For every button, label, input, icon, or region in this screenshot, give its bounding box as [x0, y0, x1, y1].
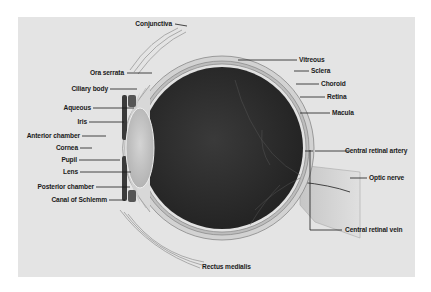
label-sclera: Sclera: [311, 67, 330, 75]
ciliary-body-lower: [128, 190, 136, 202]
label-anterior-chamber: Anterior chamber: [10, 132, 80, 140]
label-central-retinal-artery: Central retinal artery: [345, 147, 407, 155]
lens-shape: [126, 108, 154, 188]
label-aqueous: Aqueous: [30, 104, 91, 112]
label-vitreous: Vitreous: [299, 56, 324, 64]
label-cornea: Cornea: [20, 144, 78, 152]
label-lens: Lens: [20, 168, 78, 176]
label-ora-serrata: Ora serrata: [60, 69, 124, 77]
label-pupil: Pupil: [20, 156, 77, 164]
label-iris: Iris: [30, 118, 87, 126]
iris-lower: [122, 156, 127, 201]
label-conjunctiva: Conjunctiva: [110, 20, 172, 28]
label-macula: Macula: [332, 109, 354, 117]
label-posterior-chamber: Posterior chamber: [18, 183, 94, 191]
label-retina: Retina: [327, 93, 347, 101]
label-central-retinal-vein: Central retinal vein: [345, 226, 402, 234]
label-choroid: Choroid: [321, 80, 346, 88]
label-ciliary-body: Ciliary body: [40, 85, 108, 93]
label-rectus-medialis: Rectus medialis: [202, 263, 251, 271]
vitreous-body: [141, 67, 303, 229]
label-optic-nerve: Optic nerve: [369, 174, 404, 182]
ciliary-body-upper: [128, 95, 136, 107]
label-canal-of-schlemm: Canal of Schlemm: [30, 196, 107, 204]
iris-upper: [122, 95, 127, 140]
